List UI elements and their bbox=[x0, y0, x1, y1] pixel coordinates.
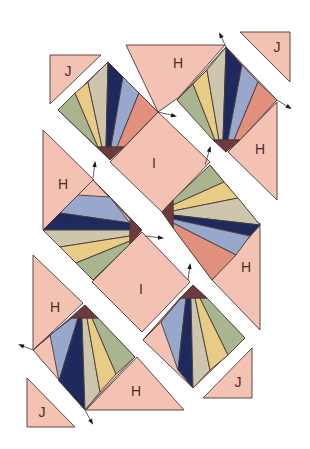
piece-label: H bbox=[131, 383, 141, 399]
arrowhead-icon bbox=[219, 32, 224, 38]
piece-label: H bbox=[241, 259, 251, 275]
arrowhead-icon bbox=[18, 344, 24, 348]
seam-arrow-top-right-down bbox=[277, 100, 292, 109]
quilt-assembly-diagram: JHJHHHHHJJ II bbox=[0, 0, 310, 449]
piece-label: J bbox=[65, 63, 72, 79]
piece-label: I bbox=[139, 281, 143, 297]
piece-label: J bbox=[39, 404, 46, 420]
seam-arrow-left-h bbox=[92, 161, 96, 178]
arrowhead-icon bbox=[285, 104, 291, 109]
piece-label: H bbox=[173, 55, 183, 71]
piece-label: H bbox=[255, 141, 265, 157]
seam-arrow-bottom-left-down bbox=[85, 410, 93, 425]
piece-label: H bbox=[58, 176, 68, 192]
piece-label: J bbox=[235, 374, 242, 390]
piece-label: H bbox=[50, 299, 60, 315]
arrowhead-icon bbox=[158, 235, 164, 239]
arrowhead-icon bbox=[187, 263, 191, 269]
arrowhead-icon bbox=[88, 418, 93, 424]
seam-arrow-bottom-left-up bbox=[18, 344, 33, 350]
seam-arrow-lower-middle bbox=[187, 263, 191, 280]
arrowhead-icon bbox=[207, 146, 211, 152]
arrowhead-icon bbox=[171, 113, 177, 117]
arrowhead-icon bbox=[92, 161, 96, 167]
piece-label: J bbox=[274, 39, 281, 55]
piece-label: I bbox=[152, 155, 156, 171]
